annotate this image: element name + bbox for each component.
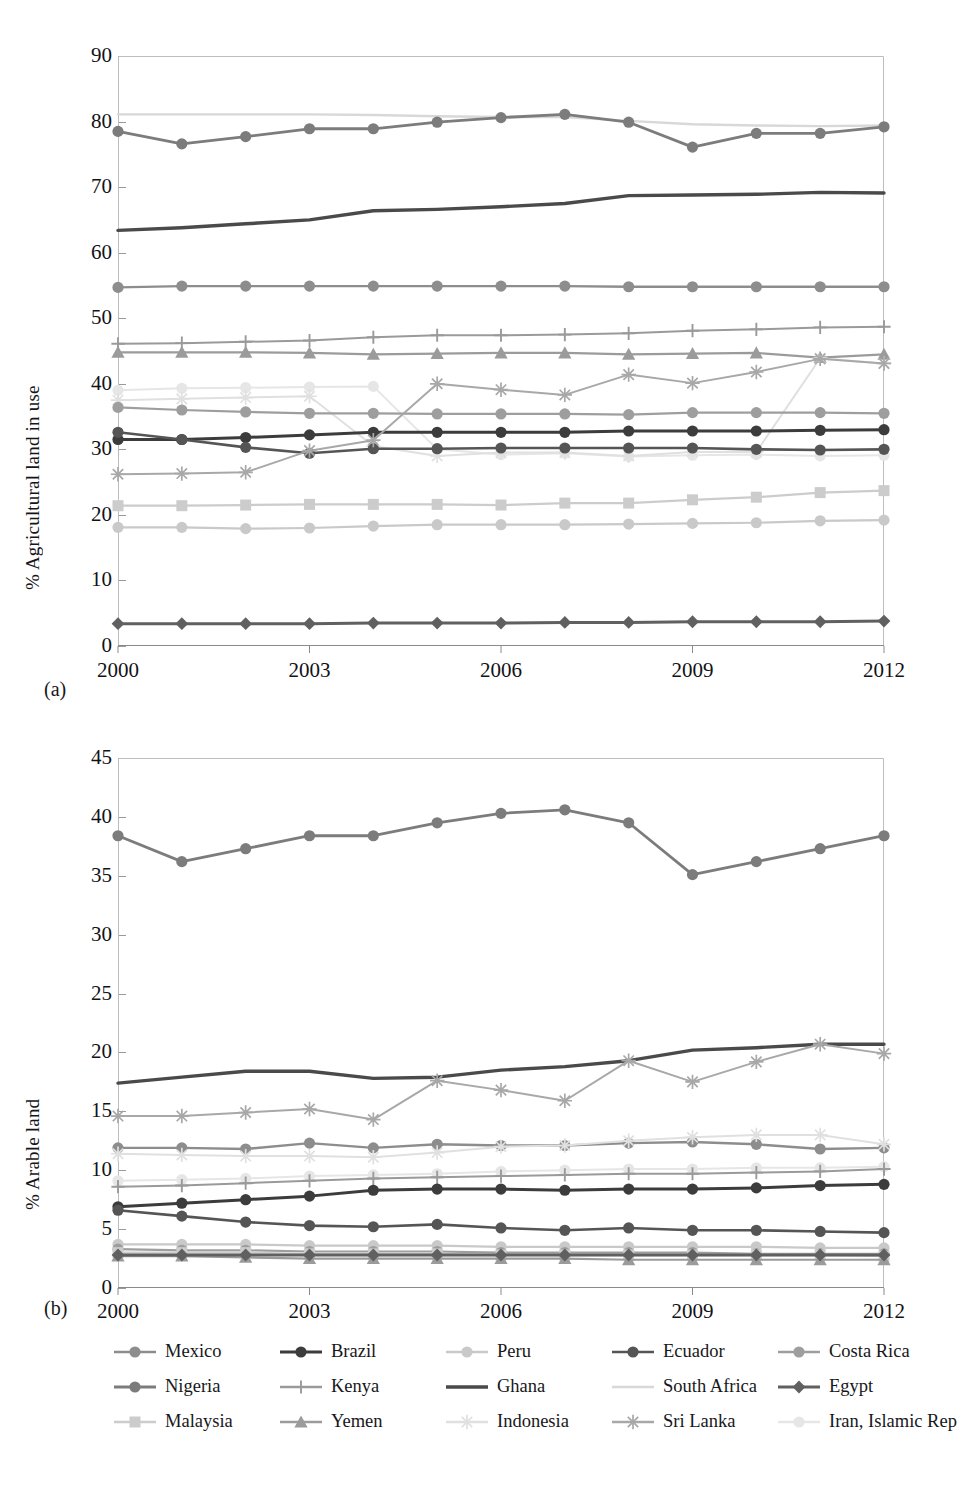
data-point-marker-circle [559,109,570,120]
x-axis-ticks-b: 20002003200620092012 [0,1301,945,1331]
data-point-marker-circle [878,424,889,435]
legend-item-mexico[interactable]: Mexico [112,1337,278,1366]
data-point-marker-circle [687,1183,698,1194]
y-tick-label: 35 [91,865,112,886]
y-axis-label-a: % Agricultural land in use [22,150,44,590]
data-point-marker-circle [176,281,187,292]
data-point-marker-asterisk [238,1149,252,1163]
legend-item-iran-islamic-rep[interactable]: Iran, Islamic Rep [776,1407,942,1436]
data-point-marker-circle [176,138,187,149]
data-point-marker-circle [368,381,379,392]
data-point-marker-circle [687,407,698,418]
legend-label: Ghana [497,1377,545,1396]
data-point-marker-circle [495,427,506,438]
legend-marker-diamond-icon [776,1378,822,1396]
data-point-marker-circle [623,281,634,292]
data-point-marker-circle [878,444,889,455]
y-tick-label: 0 [102,1277,113,1298]
data-point-marker-circle [295,1346,306,1357]
data-point-marker-circle [112,1205,123,1216]
plot-area-a [118,56,884,646]
data-point-marker-asterisk [302,1102,316,1116]
legend-item-sri-lanka[interactable]: Sri Lanka [610,1407,776,1436]
data-point-marker-asterisk [685,1075,699,1089]
data-point-marker-circle [368,830,379,841]
data-point-marker-asterisk [430,1145,444,1159]
series-ghana [118,192,884,230]
data-point-marker-asterisk [749,1055,763,1069]
data-point-marker-circle [623,409,634,420]
x-tick-label: 2000 [97,1301,139,1322]
data-point-marker-square [496,500,507,511]
data-point-marker-circle [304,522,315,533]
data-point-marker-circle [176,522,187,533]
legend-item-ghana[interactable]: Ghana [444,1372,610,1401]
plot-area-b [118,758,884,1288]
legend-row: NigeriaKenyaGhanaSouth AfricaEgypt [112,1372,942,1401]
data-point-marker-circle [432,443,443,454]
data-point-marker-circle [495,808,506,819]
legend-label: South Africa [663,1377,757,1396]
data-point-marker-diamond [112,617,125,630]
data-point-marker-asterisk [749,1128,763,1142]
legend-label: Mexico [165,1342,222,1361]
y-tick-label: 10 [91,1159,112,1180]
legend-label: Sri Lanka [663,1412,735,1431]
data-point-marker-circle [559,408,570,419]
data-point-marker-asterisk [813,1037,827,1051]
data-point-marker-circle [751,856,762,867]
data-point-marker-asterisk [238,390,252,404]
series-kenya [111,320,890,350]
data-point-marker-circle [240,523,251,534]
data-point-marker-circle [112,427,123,438]
data-point-marker-asterisk [558,1138,572,1152]
data-point-marker-asterisk [621,1134,635,1148]
legend-item-nigeria[interactable]: Nigeria [112,1372,278,1401]
data-point-marker-circle [751,425,762,436]
series-egypt [112,615,891,630]
data-point-marker-plus [494,329,507,342]
data-point-marker-circle [240,1194,251,1205]
data-point-marker-circle [304,408,315,419]
y-axis-ticks-a: 0102030405060708090 [48,0,112,700]
data-point-marker-circle [751,407,762,418]
x-tick-label: 2006 [480,1301,522,1322]
data-point-marker-square [879,485,890,496]
legend-item-malaysia[interactable]: Malaysia [112,1407,278,1436]
legend-label: Peru [497,1342,531,1361]
data-point-marker-diamond [558,616,571,629]
data-point-marker-circle [432,408,443,419]
legend-item-brazil[interactable]: Brazil [278,1337,444,1366]
legend-item-indonesia[interactable]: Indonesia [444,1407,610,1436]
data-point-marker-circle [368,123,379,134]
series-sri-lanka [111,1037,891,1127]
data-point-marker-circle [623,518,634,529]
legend-item-kenya[interactable]: Kenya [278,1372,444,1401]
data-point-marker-circle [240,442,251,453]
data-point-marker-plus [431,329,444,342]
legend-row: MalaysiaYemenIndonesiaSri LankaIran, Isl… [112,1407,942,1436]
legend-marker-none-icon [610,1378,656,1396]
legend-row: MexicoBrazilPeruEcuadorCosta Rica [112,1337,942,1366]
data-point-marker-asterisk [877,1046,891,1060]
legend-item-costa-rica[interactable]: Costa Rica [776,1337,942,1366]
legend-item-ecuador[interactable]: Ecuador [610,1337,776,1366]
data-point-marker-square [432,499,443,510]
legend-marker-asterisk-icon [610,1413,656,1431]
series-mexico [112,281,889,294]
legend-marker-circle-icon [610,1343,656,1361]
data-point-marker-circle [687,1225,698,1236]
legend-item-south-africa[interactable]: South Africa [610,1372,776,1401]
data-point-marker-asterisk [621,1053,635,1067]
data-point-marker-asterisk [626,1414,640,1428]
data-point-marker-asterisk [366,1112,380,1126]
data-point-marker-circle [129,1381,140,1392]
y-tick-mark [118,1288,126,1289]
data-point-marker-circle [687,142,698,153]
legend-marker-circle-icon [112,1343,158,1361]
legend-label: Costa Rica [829,1342,910,1361]
legend-item-egypt[interactable]: Egypt [776,1372,942,1401]
legend-item-yemen[interactable]: Yemen [278,1407,444,1436]
legend-marker-square-icon [112,1413,158,1431]
legend-item-peru[interactable]: Peru [444,1337,610,1366]
